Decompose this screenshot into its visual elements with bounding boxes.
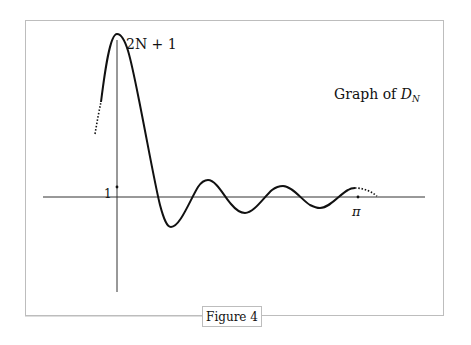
peak-label: 2N + 1: [126, 36, 177, 52]
y-tick-one: [116, 186, 119, 189]
y-tick-label: 1: [104, 187, 112, 201]
figure-caption: Figure 4: [202, 306, 262, 327]
dirichlet-kernel-curve: [101, 34, 355, 227]
dirichlet-kernel-plot: [0, 0, 471, 345]
x-tick-label-pi: π: [352, 204, 361, 219]
curve-left-dotted: [95, 102, 101, 134]
graph-title: Graph of DN: [334, 86, 420, 104]
curve-right-dotted: [355, 188, 377, 196]
x-tick-pi: [357, 196, 360, 199]
